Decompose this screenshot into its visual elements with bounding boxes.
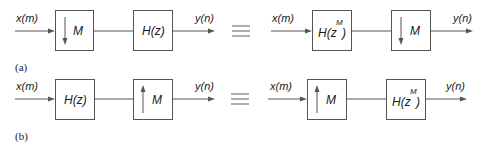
downsampler-block: M [56,11,94,51]
input-label: x(m) [15,80,38,92]
downsampler-block: M [392,11,431,51]
filter-label: H(z) [64,93,87,107]
arrowhead-icon [466,29,473,34]
filter-block: H(z) [56,80,95,120]
arrowhead-icon [48,29,55,34]
input-label: x(m) [271,12,294,24]
arrowhead-icon [300,97,307,102]
filter-label: H(z [318,26,337,40]
upsample-factor: M [326,93,336,107]
arrowhead-icon [208,97,215,102]
upsample-factor: M [152,93,162,107]
filter-block: H(z M ) [313,11,352,51]
input-label: x(m) [269,80,292,92]
filter-block: H(z) [134,11,173,51]
equivalence-icon [232,26,250,36]
downsample-factor: M [73,24,83,38]
filter-label: H(z [392,95,411,109]
input-label: x(m) [15,12,38,24]
caption-b: (b) [15,130,28,143]
row-a: x(m) M H(z) y(n) [15,11,473,75]
row-b: x(m) H(z) M y(n) [15,80,467,144]
output-label: y(n) [194,12,214,24]
row-a-right-system: x(m) H(z M ) M y(n) [271,11,473,51]
upsampler-block: M [308,80,347,120]
downsample-factor: M [410,24,420,38]
arrowhead-icon [305,29,312,34]
filter-block: H(z M ) [387,80,426,120]
multirate-identities-diagram: x(m) M H(z) y(n) [0,0,488,146]
row-a-left-system: x(m) M H(z) y(n) [15,11,215,51]
upsampler-block: M [134,80,173,120]
output-label: y(n) [445,80,465,92]
arrowhead-icon [208,29,215,34]
output-label: y(n) [194,80,214,92]
arrowhead-icon [48,97,55,102]
filter-label: H(z) [142,24,165,38]
row-b-left-system: x(m) H(z) M y(n) [15,80,215,120]
output-label: y(n) [452,12,472,24]
row-b-right-system: x(m) M H(z M ) y(n) [268,80,467,120]
equivalence-icon [231,94,249,104]
caption-a: (a) [15,61,28,74]
arrowhead-icon [460,97,467,102]
